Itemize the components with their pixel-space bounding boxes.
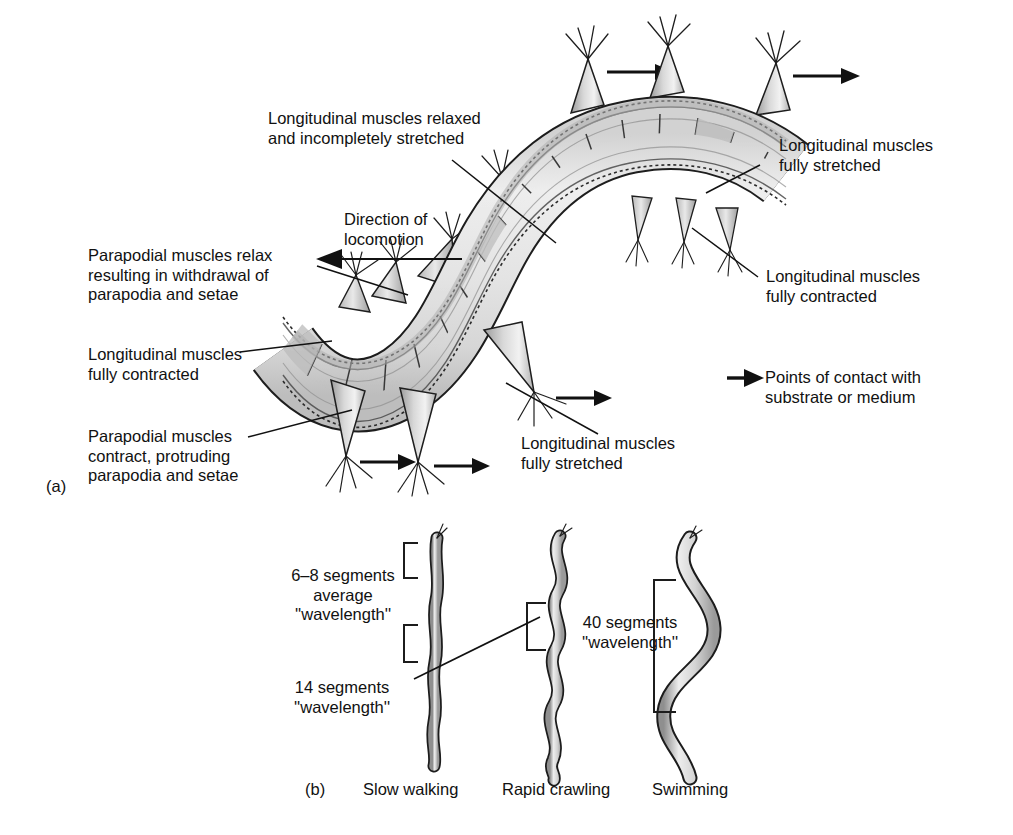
- label-direction-of-locomotion: Direction of locomotion: [344, 210, 427, 249]
- label-muscles-fully-stretched-bottom: Longitudinal muscles fully stretched: [521, 434, 675, 473]
- label-muscles-fully-stretched-right: Longitudinal muscles fully stretched: [779, 136, 933, 175]
- panel-a-id: (a): [46, 477, 66, 496]
- annotation-6-8-segments: 6–8 segments average ''wavelength'': [263, 566, 423, 625]
- worm-rapid-crawling: [550, 524, 572, 780]
- panel-b-id: (b): [305, 780, 325, 799]
- caption-rapid-crawling: Rapid crawling: [502, 780, 610, 799]
- bracket-rapid: [527, 603, 546, 650]
- label-muscles-fully-contracted-right: Longitudinal muscles fully contracted: [766, 267, 920, 306]
- worm-swimming: [664, 526, 714, 778]
- worm-slow-walking: [433, 524, 447, 766]
- annotation-14-segments: 14 segments ''wavelength'': [262, 678, 422, 717]
- panel-b-artwork: [0, 0, 1013, 835]
- caption-slow-walking: Slow walking: [363, 780, 458, 799]
- label-parapodial-muscles-relax: Parapodial muscles relax resulting in wi…: [88, 246, 272, 305]
- label-points-of-contact-legend: Points of contact with substrate or medi…: [765, 368, 921, 407]
- caption-swimming: Swimming: [652, 780, 728, 799]
- figure-canvas: Longitudinal muscles relaxed and incompl…: [0, 0, 1013, 835]
- annotation-40-segments: 40 segments ''wavelength'': [545, 613, 715, 652]
- label-muscles-fully-contracted-left: Longitudinal muscles fully contracted: [88, 345, 242, 384]
- label-muscles-relaxed-stretched: Longitudinal muscles relaxed and incompl…: [268, 109, 481, 148]
- bracket-slow-lower: [404, 625, 418, 662]
- label-parapodial-muscles-contract: Parapodial muscles contract, protruding …: [88, 427, 238, 486]
